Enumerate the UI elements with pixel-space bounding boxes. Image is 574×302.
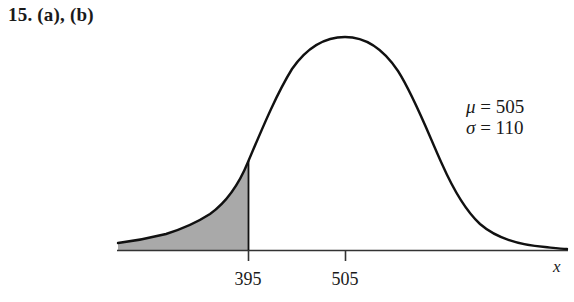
normal-curve <box>118 37 567 249</box>
tick-label-505: 505 <box>315 269 375 290</box>
x-axis-label: x <box>553 257 561 277</box>
normal-distribution-figure: 15. (a), (b) μ = 505 σ = 110 395 505 x <box>0 0 574 302</box>
distribution-plot <box>0 0 574 302</box>
sigma-value: = 110 <box>475 117 523 138</box>
sigma-parameter-line: σ = 110 <box>466 117 524 138</box>
distribution-parameters: μ = 505 σ = 110 <box>466 96 524 138</box>
shaded-tail-region <box>118 162 248 250</box>
mu-value: = 505 <box>476 96 525 117</box>
tick-label-395: 395 <box>218 269 278 290</box>
sigma-symbol: σ <box>466 117 475 138</box>
mu-symbol: μ <box>466 96 476 117</box>
mu-parameter-line: μ = 505 <box>466 96 524 117</box>
